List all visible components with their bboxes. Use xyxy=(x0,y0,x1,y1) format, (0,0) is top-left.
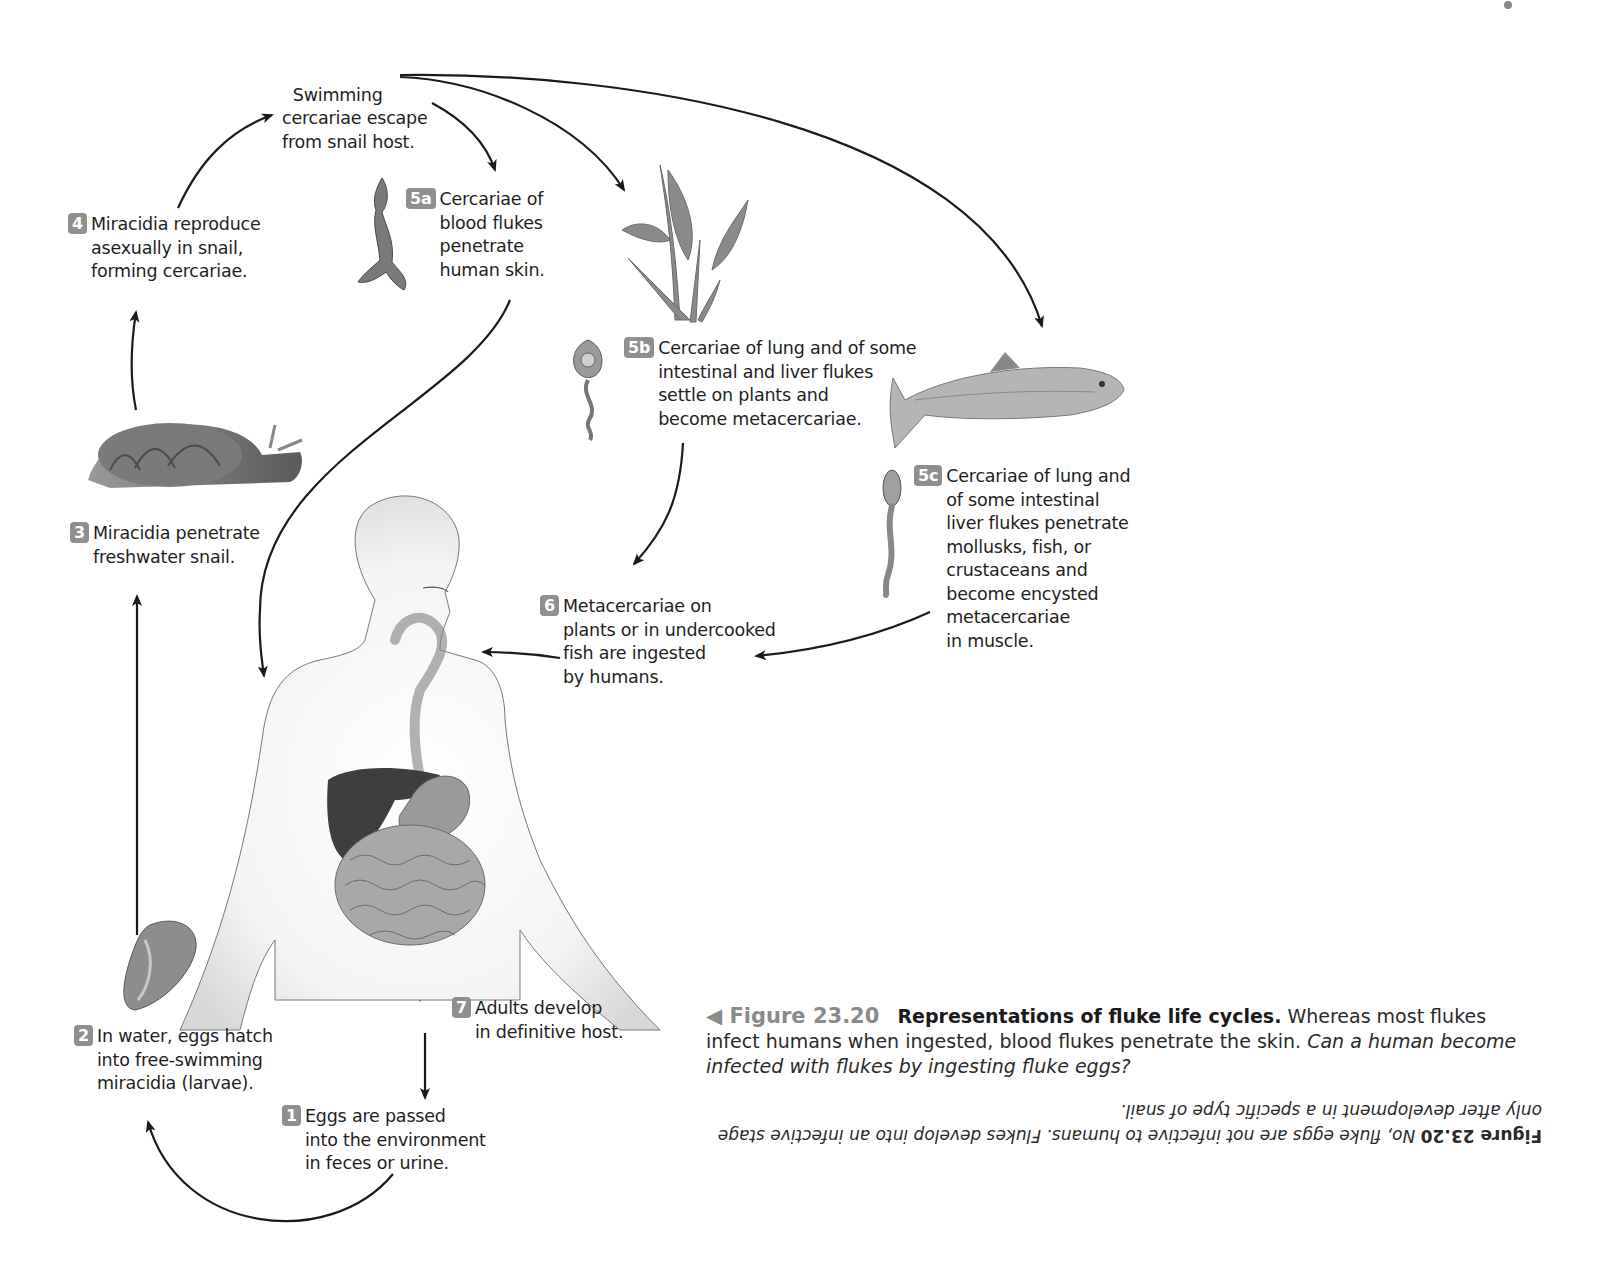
answer-figure-label: Figure 23.20 xyxy=(1421,1126,1542,1146)
answer-text: No, fluke eggs are not infective to huma… xyxy=(718,1101,1542,1146)
stage-badge-3: 3 xyxy=(70,522,89,543)
blood-fluke-cercaria-illustration xyxy=(358,178,406,290)
stage-badge-7: 7 xyxy=(452,997,471,1018)
arrow-4-to-top xyxy=(178,115,272,208)
cercaria-5b-illustration xyxy=(574,340,602,440)
human-illustration xyxy=(180,496,660,1030)
snail-illustration xyxy=(88,423,302,488)
inverted-answer: Figure 23.20 No, fluke eggs are not infe… xyxy=(712,1098,1542,1148)
stage-badge-2: 2 xyxy=(74,1025,93,1046)
label-stage-2: 2 In water, eggs hatch into free-swimmin… xyxy=(74,1025,273,1096)
stage-badge-1: 1 xyxy=(282,1105,301,1126)
aquatic-plant-illustration xyxy=(622,165,748,322)
label-stage-5b: 5b Cercariae of lung and of some intesti… xyxy=(624,337,916,431)
fluke-egg-illustration xyxy=(124,921,196,1010)
fish-illustration xyxy=(890,352,1124,448)
stage-badge-5a: 5a xyxy=(406,188,436,209)
label-stage-1: 1 Eggs are passed into the environment i… xyxy=(282,1105,486,1176)
stage-badge-4: 4 xyxy=(68,213,87,234)
label-stage-4: 4 Miracidia reproduce asexually in snail… xyxy=(68,213,261,284)
scan-mark xyxy=(1504,1,1512,9)
label-swimming-cercariae: Swimming cercariae escape from snail hos… xyxy=(282,60,428,154)
stage-badge-6: 6 xyxy=(540,595,559,616)
label-stage-5c: 5c Cercariae of lung and of some intesti… xyxy=(914,465,1130,653)
intestines xyxy=(335,825,485,945)
label-stage-7: 7 Adults develop in definitive host. xyxy=(452,997,623,1044)
arrow-top-to-plant xyxy=(400,77,624,190)
label-stage-3: 3 Miracidia penetrate freshwater snail. xyxy=(70,522,260,569)
arrow-top-to-5a xyxy=(432,103,495,170)
arrow-3-to-4 xyxy=(132,312,137,410)
cercaria-5c-illustration xyxy=(883,470,901,595)
arrow-5c-to-6 xyxy=(756,612,930,656)
figure-title: Representations of fluke life cycles. xyxy=(897,1005,1281,1027)
stage-badge-5b: 5b xyxy=(624,337,654,358)
label-stage-5a: 5a Cercariae of blood flukes penetrate h… xyxy=(406,188,545,282)
arrow-5b-to-6 xyxy=(634,443,683,564)
figure-label: ◀ Figure 23.20 xyxy=(706,1004,879,1028)
figure-caption: ◀ Figure 23.20 Representations of fluke … xyxy=(706,1004,1536,1079)
stage-badge-5c: 5c xyxy=(914,465,942,486)
label-stage-6: 6 Metacercariae on plants or in undercoo… xyxy=(540,595,776,689)
